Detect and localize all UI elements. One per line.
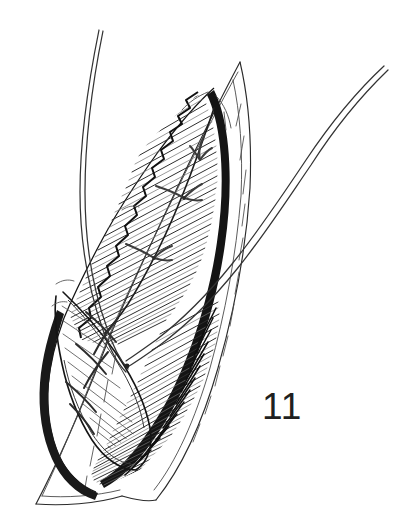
figure-illustration: 11 <box>0 0 397 530</box>
thread-terminus-node <box>125 364 130 369</box>
figure-number-label: 11 <box>262 388 302 425</box>
illustration-background <box>0 0 397 530</box>
surgical-illustration-svg <box>0 0 397 530</box>
